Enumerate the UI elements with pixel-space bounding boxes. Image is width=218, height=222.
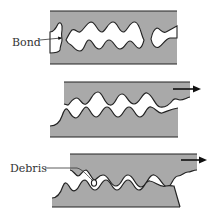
debris-particle	[91, 180, 96, 186]
panel-debris: Debris	[10, 154, 207, 207]
bond-label: Bond	[12, 36, 41, 49]
panel-sliding	[50, 82, 201, 137]
wear-diagram: Bond Debris	[0, 0, 218, 222]
motion-arrow-icon	[199, 157, 207, 164]
debris-label: Debris	[10, 162, 47, 175]
motion-arrow-icon	[193, 86, 201, 93]
upper-material	[70, 154, 197, 187]
panel-bond: Bond	[12, 11, 177, 64]
